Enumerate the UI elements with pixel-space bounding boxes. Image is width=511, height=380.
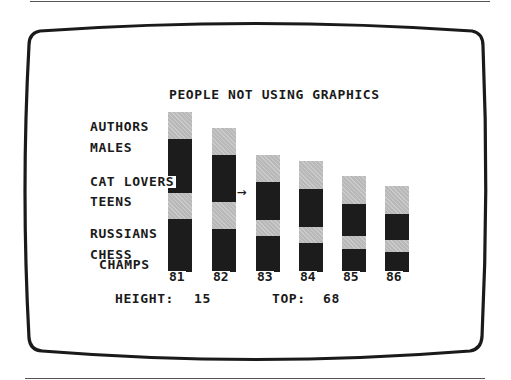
segment bbox=[299, 161, 323, 189]
segment bbox=[256, 236, 280, 272]
label-authors: AUTHORS bbox=[90, 121, 149, 133]
top-label: TOP: bbox=[272, 293, 306, 305]
segment bbox=[212, 202, 236, 229]
segment bbox=[168, 219, 192, 272]
height-label: HEIGHT: bbox=[115, 293, 174, 305]
year-label-82: 82 bbox=[212, 271, 230, 283]
bar-81 bbox=[168, 112, 192, 272]
segment bbox=[212, 229, 236, 272]
segment bbox=[385, 240, 409, 252]
label-teens: TEENS bbox=[90, 196, 132, 208]
segment bbox=[168, 193, 192, 219]
label-males: MALES bbox=[90, 142, 132, 154]
segment bbox=[168, 112, 192, 139]
chart-title: PEOPLE NOT USING GRAPHICS bbox=[169, 89, 380, 101]
segment bbox=[256, 155, 280, 182]
segment bbox=[256, 182, 280, 220]
segment bbox=[342, 236, 366, 249]
segment bbox=[256, 220, 280, 236]
segment bbox=[212, 155, 236, 202]
year-label-85: 85 bbox=[342, 271, 360, 283]
segment bbox=[212, 128, 236, 155]
segment bbox=[385, 186, 409, 214]
segment bbox=[299, 189, 323, 227]
segment bbox=[299, 227, 323, 243]
segment bbox=[385, 214, 409, 240]
label-cat-lovers: CAT LOVERS bbox=[90, 176, 176, 188]
label-champs: CHAMPS bbox=[99, 259, 150, 271]
arrow-pointer-icon: → bbox=[237, 186, 247, 198]
top-value: 68 bbox=[323, 293, 340, 305]
year-label-86: 86 bbox=[385, 271, 403, 283]
bar-82 bbox=[212, 128, 236, 272]
segment bbox=[342, 204, 366, 236]
bar-86 bbox=[385, 186, 409, 272]
year-label-81: 81 bbox=[168, 271, 186, 283]
bar-83 bbox=[256, 155, 280, 272]
bar-84 bbox=[299, 161, 323, 272]
bar-85 bbox=[342, 176, 366, 272]
year-label-84: 84 bbox=[299, 271, 317, 283]
year-label-83: 83 bbox=[256, 271, 274, 283]
segment bbox=[299, 243, 323, 272]
segment bbox=[342, 176, 366, 204]
label-russians: RUSSIANS bbox=[90, 228, 157, 240]
height-value: 15 bbox=[194, 293, 211, 305]
